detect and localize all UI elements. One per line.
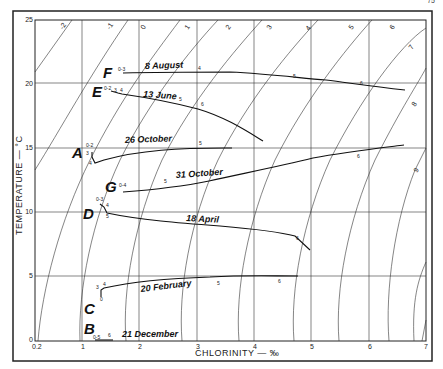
svg-text:6: 6 xyxy=(368,343,372,350)
svg-text:5: 5 xyxy=(29,272,33,279)
svg-text:13 June: 13 June xyxy=(143,89,177,101)
svg-text:6: 6 xyxy=(360,80,363,86)
svg-text:6: 6 xyxy=(357,153,360,159)
svg-text:5: 5 xyxy=(347,23,355,30)
svg-text:0-2: 0-2 xyxy=(104,85,111,91)
svg-text:7: 7 xyxy=(424,343,428,350)
svg-text:0: 0 xyxy=(139,23,147,30)
svg-text:10: 10 xyxy=(25,208,33,215)
svg-text:C: C xyxy=(84,300,96,317)
svg-text:0-4: 0-4 xyxy=(119,182,126,188)
svg-text:4: 4 xyxy=(103,281,106,287)
svg-text:4: 4 xyxy=(89,160,92,166)
svg-text:5: 5 xyxy=(217,280,220,286)
svg-text:5: 5 xyxy=(293,73,296,79)
y-axis-label: TEMPERATURE — °C xyxy=(14,136,24,235)
svg-text:0.2: 0.2 xyxy=(32,343,42,350)
svg-text:25: 25 xyxy=(25,16,33,23)
svg-text:-2: -2 xyxy=(58,21,67,30)
svg-text:4: 4 xyxy=(120,87,123,93)
svg-text:3: 3 xyxy=(86,150,89,156)
svg-text:18 April: 18 April xyxy=(186,213,220,225)
gridlines xyxy=(35,20,426,341)
svg-text:5: 5 xyxy=(106,213,109,219)
curve-G xyxy=(123,145,404,192)
svg-text:F: F xyxy=(103,64,113,81)
plot-frame xyxy=(35,20,426,341)
svg-text:4: 4 xyxy=(198,65,201,71)
svg-text:26 October: 26 October xyxy=(124,133,173,145)
svg-text:4: 4 xyxy=(106,202,109,208)
svg-text:6: 6 xyxy=(388,23,396,30)
svg-text:1: 1 xyxy=(183,23,191,30)
svg-text:1: 1 xyxy=(81,343,85,350)
density-isolines xyxy=(35,20,426,341)
svg-text:5: 5 xyxy=(164,178,167,184)
svg-text:6: 6 xyxy=(201,101,204,107)
svg-text:0-3: 0-3 xyxy=(96,196,103,202)
svg-text:3: 3 xyxy=(265,23,273,30)
svg-text:8: 8 xyxy=(410,100,418,107)
svg-text:-1: -1 xyxy=(105,21,114,30)
svg-text:8 August: 8 August xyxy=(145,60,184,71)
station-letters: F E A G D C B xyxy=(71,64,117,337)
curve-C xyxy=(101,276,298,297)
svg-text:6: 6 xyxy=(108,332,111,338)
y-tick-labels: 25 20 15 10 5 0 xyxy=(25,16,33,343)
svg-text:3: 3 xyxy=(96,284,99,290)
svg-text:0-5: 0-5 xyxy=(93,334,100,340)
svg-text:20: 20 xyxy=(25,80,33,87)
svg-text:5: 5 xyxy=(199,140,202,146)
svg-text:31 October: 31 October xyxy=(175,167,223,180)
svg-text:6: 6 xyxy=(296,235,299,241)
svg-text:0: 0 xyxy=(29,336,33,343)
depth-labels: 0-3 4 5 6 0-2 3 4 5 6 0-2 3 4 5 0-4 5 6 … xyxy=(86,65,363,340)
ts-diagram: -2 -1 0 1 2 3 4 5 6 7 8 9 0.2 1 2 3 4 5 … xyxy=(0,0,443,369)
svg-text:0-3: 0-3 xyxy=(118,66,125,72)
svg-text:3: 3 xyxy=(114,87,117,93)
svg-text:20 February: 20 February xyxy=(139,278,193,294)
svg-text:A: A xyxy=(71,144,83,161)
svg-text:21 December: 21 December xyxy=(121,329,179,339)
date-labels: 8 August 13 June 26 October 31 October 1… xyxy=(121,60,224,339)
svg-text:7: 7 xyxy=(407,43,415,50)
svg-text:G: G xyxy=(105,178,117,195)
svg-text:5: 5 xyxy=(310,343,314,350)
svg-text:E: E xyxy=(92,83,103,100)
svg-text:6: 6 xyxy=(278,278,281,284)
svg-text:D: D xyxy=(83,205,94,222)
svg-text:2: 2 xyxy=(224,23,232,30)
svg-text:0: 0 xyxy=(100,296,103,302)
curve-A xyxy=(92,148,232,163)
svg-text:15: 15 xyxy=(25,144,33,151)
x-axis-label: CHLORINITY — ‰ xyxy=(195,348,279,358)
svg-text:5: 5 xyxy=(179,96,182,102)
svg-text:2: 2 xyxy=(138,343,142,350)
svg-text:0-2: 0-2 xyxy=(86,142,93,148)
curve-D xyxy=(100,204,310,250)
